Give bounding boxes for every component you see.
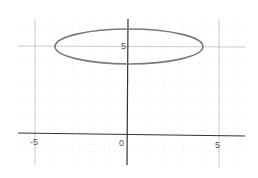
x-tick-label-0: 0 [119,138,124,148]
x-tick-label-5: 5 [215,140,220,150]
graph-canvas [0,0,258,178]
y-axis [127,19,128,165]
major-gridlines [18,19,245,168]
minor-gridlines [18,19,245,165]
x-tick-label-neg5: -5 [30,137,38,147]
x-axis [18,133,245,136]
axes [18,19,245,165]
y-tick-label-5: 5 [121,41,126,51]
gridline-y-5 [18,46,245,47]
